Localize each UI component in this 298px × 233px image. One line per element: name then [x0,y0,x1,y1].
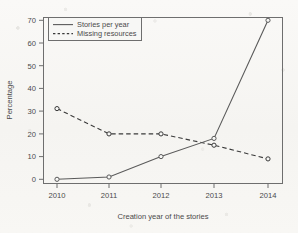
plot-frame [44,18,283,184]
data-point [266,18,270,22]
y-tick-label: 60 [28,39,36,48]
y-tick-label: 40 [28,84,36,93]
legend-label-missing-resources: Missing resources [77,29,137,38]
x-axis-ticks [57,184,268,189]
y-tick-label: 10 [28,152,36,161]
data-point [55,107,59,111]
y-axis-tick-labels: 70 60 50 40 30 20 10 0 [28,16,36,184]
line-chart-plot: 70 60 50 40 30 20 10 0 Percentage 2010 2… [0,0,298,233]
series-stories-per-year [55,18,270,181]
x-tick-label: 2010 [49,191,66,200]
legend-label-stories-per-year: Stories per year [77,20,130,29]
series-missing-resources [55,107,270,161]
data-point [159,132,163,136]
x-tick-label: 2011 [101,191,117,200]
y-tick-label: 20 [28,130,36,139]
chart-figure: 70 60 50 40 30 20 10 0 Percentage 2010 2… [0,0,298,233]
data-point [55,177,59,181]
y-tick-label: 0 [32,175,36,184]
data-point [212,143,216,147]
x-tick-label: 2014 [260,191,277,200]
data-point [107,175,111,179]
data-point [107,132,111,136]
y-tick-label: 30 [28,107,36,116]
x-axis-title: Creation year of the stories [117,212,208,221]
y-axis-title: Percentage [5,81,14,120]
data-point [266,157,270,161]
x-axis-tick-labels: 2010 2011 2012 2013 2014 [49,191,277,200]
x-tick-label: 2013 [206,191,223,200]
y-tick-label: 70 [28,16,36,25]
data-point [212,136,216,140]
chart-legend: Stories per year Missing resources [49,18,142,41]
y-axis-ticks [39,20,44,179]
x-tick-label: 2012 [153,191,170,200]
data-point [159,155,163,159]
y-tick-label: 50 [28,62,36,71]
